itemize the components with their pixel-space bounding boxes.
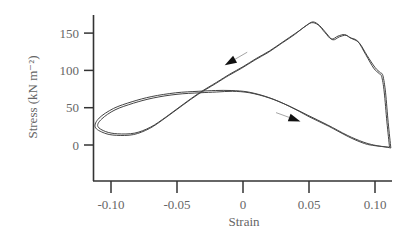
x-ticks: -0.10-0.0500.050.10: [97, 181, 386, 212]
plot-area: [95, 22, 391, 148]
series-lines: [95, 22, 391, 148]
x-tick-label: -0.10: [97, 197, 124, 212]
x-axis: -0.10-0.0500.050.10: [93, 181, 392, 212]
y-tick-label: 150: [60, 26, 80, 41]
x-axis-label: Strain: [228, 214, 260, 229]
y-ticks: 050100150: [60, 26, 94, 153]
y-tick-label: 0: [73, 138, 80, 153]
x-tick-label: 0: [240, 197, 247, 212]
arrow-icon: [275, 109, 302, 125]
x-tick-label: 0.10: [364, 197, 387, 212]
y-axis-label: Stress (kN m⁻²): [25, 55, 40, 138]
direction-arrows: [223, 49, 302, 126]
x-tick-label: 0.05: [298, 197, 321, 212]
y-axis: 050100150: [60, 15, 94, 181]
series-line: [95, 23, 390, 148]
y-tick-label: 50: [66, 100, 79, 115]
series-line: [98, 22, 391, 148]
y-tick-label: 100: [60, 63, 80, 78]
x-tick-label: -0.05: [163, 197, 190, 212]
stress-strain-chart: 050100150 -0.10-0.0500.050.10 Strain Str…: [0, 0, 411, 241]
